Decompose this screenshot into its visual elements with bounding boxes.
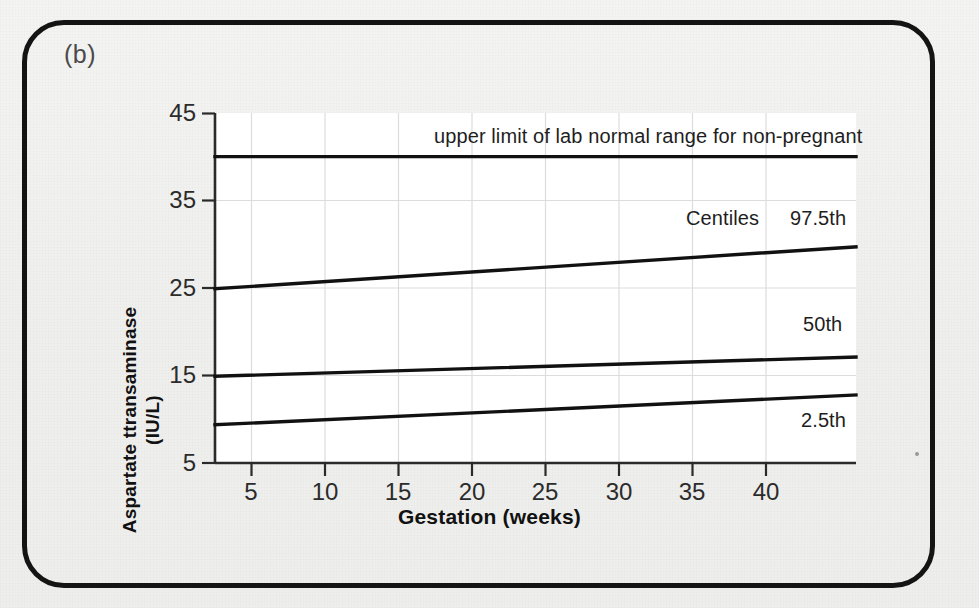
legend-label-2-5th: 2.5th xyxy=(801,409,846,432)
annotation-upper-limit-label: upper limit of lab normal range for non-… xyxy=(434,125,862,148)
x-axis-ticks xyxy=(252,463,767,476)
gridlines-horizontal xyxy=(215,201,856,376)
series-2-5th xyxy=(215,395,856,425)
series-50th xyxy=(215,357,856,376)
series-97-5th xyxy=(215,247,856,289)
chart-svg xyxy=(0,0,979,608)
annotation-centiles: Centiles xyxy=(686,207,759,230)
y-axis-ticks xyxy=(202,114,215,464)
speck-mark xyxy=(915,452,919,456)
chart-figure: Aspartate ttransaminase (IU/L) 45 35 25 … xyxy=(0,0,979,608)
legend-label-50th: 50th xyxy=(803,313,842,336)
legend-label-97-5th: 97.5th xyxy=(790,207,846,230)
